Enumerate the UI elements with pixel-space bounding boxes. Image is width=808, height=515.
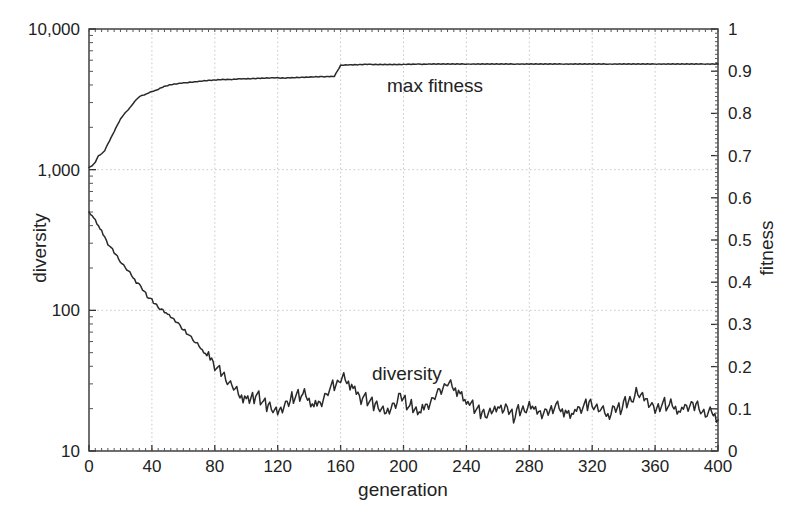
y2-tick-label: 0.7: [728, 147, 752, 166]
y2-tick-label: 0.9: [728, 62, 752, 81]
y2-tick-label: 0.8: [728, 104, 752, 123]
x-tick-label: 120: [264, 457, 292, 476]
chart-canvas: 04080120160200240280320360400 101001,000…: [0, 0, 808, 515]
x-tick-label: 0: [84, 457, 93, 476]
series-label-diversity: diversity: [372, 363, 442, 384]
y-tick-label: 10: [61, 442, 80, 461]
y2-tick-label: 1: [728, 20, 737, 39]
y2-tick-label: 0.5: [728, 231, 752, 250]
x-tick-label: 320: [578, 457, 606, 476]
y-axis-title: diversity: [29, 213, 50, 283]
x-tick-label: 40: [142, 457, 161, 476]
x-tick-label: 360: [641, 457, 669, 476]
y2-tick-labels: 00.10.20.30.40.50.60.70.80.91: [728, 20, 752, 461]
y-tick-label: 10,000: [28, 20, 80, 39]
y2-tick-label: 0.6: [728, 189, 752, 208]
chart-figure: 04080120160200240280320360400 101001,000…: [0, 0, 808, 515]
y2-tick-label: 0.2: [728, 358, 752, 377]
x-tick-labels: 04080120160200240280320360400: [84, 457, 732, 476]
x-tick-label: 280: [515, 457, 543, 476]
y2-tick-label: 0: [728, 442, 737, 461]
y2-axis-title: fitness: [756, 221, 777, 276]
series-label-max-fitness: max fitness: [387, 75, 483, 96]
y2-tick-label: 0.4: [728, 273, 752, 292]
x-tick-label: 80: [205, 457, 224, 476]
x-tick-label: 240: [452, 457, 480, 476]
y-tick-label: 1,000: [37, 161, 80, 180]
y2-tick-label: 0.1: [728, 400, 752, 419]
x-axis-title: generation: [358, 479, 448, 500]
x-tick-label: 200: [389, 457, 417, 476]
y2-tick-label: 0.3: [728, 315, 752, 334]
x-tick-label: 160: [326, 457, 354, 476]
y-tick-label: 100: [52, 301, 80, 320]
